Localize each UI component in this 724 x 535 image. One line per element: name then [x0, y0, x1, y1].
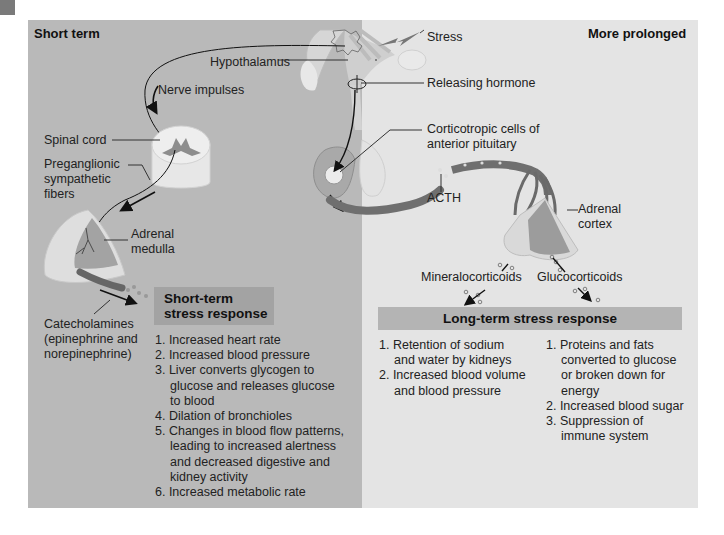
nerve-impulses-label: Nerve impulses — [158, 83, 244, 98]
adrenal-cortex-label-line1: Adrenal — [578, 202, 621, 217]
mineralocorticoid-effect-item: 1. Retention of sodium and water by kidn… — [379, 338, 554, 368]
stress-bolt-icon — [378, 32, 420, 46]
adrenal-cortex-label-line2: cortex — [578, 217, 612, 232]
catecholamines-label-line1: Catecholamines — [44, 317, 134, 332]
preganglionic-label-line1: Preganglionic — [44, 157, 120, 172]
adrenal-medulla-label-line2: medulla — [131, 242, 175, 257]
corticotropic-label-line1: Corticotropic cells of — [427, 122, 540, 137]
long-term-response-title: Long-term stress response — [378, 307, 682, 330]
short-term-effect-item: 1. Increased heart rate — [155, 333, 365, 348]
preganglionic-label-line3: fibers — [44, 187, 75, 202]
spinal-cord-icon — [152, 126, 210, 188]
mineralocorticoid-effect-item: 2. Increased blood volume and blood pres… — [379, 368, 554, 398]
short-term-effects-list: 1. Increased heart rate 2. Increased blo… — [155, 333, 365, 500]
short-term-title-line1: Short-term — [154, 287, 274, 306]
short-term-effect-item: 4. Dilation of bronchioles — [155, 409, 365, 424]
mineralocorticoids-label: Mineralocorticoids — [421, 270, 522, 285]
glucocorticoid-effect-item: 1. Proteins and fats converted to glucos… — [546, 338, 706, 399]
short-term-response-title-box: Short-term stress response — [154, 287, 274, 325]
glucocorticoids-label: Glucocorticoids — [537, 270, 622, 285]
glucocorticoid-effect-item: 3. Suppression of immune system — [546, 414, 706, 444]
short-term-title-line2: stress response — [154, 306, 274, 321]
glucocorticoid-effects-list: 1. Proteins and fats converted to glucos… — [546, 338, 706, 444]
adrenal-medulla-label-line1: Adrenal — [131, 227, 174, 242]
catecholamines-label-line2: (epinephrine and — [44, 332, 138, 347]
adrenal-medulla-icon — [44, 210, 125, 288]
short-term-effect-item: 3. Liver converts glycogen to glucose an… — [155, 363, 365, 409]
glucocorticoid-effect-item: 2. Increased blood sugar — [546, 399, 706, 414]
mineralocorticoid-effects-list: 1. Retention of sodium and water by kidn… — [379, 338, 554, 399]
more-prolonged-heading: More prolonged — [588, 26, 686, 41]
short-term-effect-item: 2. Increased blood pressure — [155, 348, 365, 363]
stress-label: Stress — [427, 30, 462, 45]
acth-label: ACTH — [427, 191, 461, 206]
spinal-cord-label: Spinal cord — [44, 133, 107, 148]
catecholamines-label-line3: norepinephrine) — [44, 347, 132, 362]
releasing-hormone-label: Releasing hormone — [427, 76, 535, 91]
short-term-effect-item: 5. Changes in blood flow patterns, leadi… — [155, 424, 365, 485]
short-term-heading: Short term — [34, 26, 100, 41]
short-term-effect-item: 6. Increased metabolic rate — [155, 485, 365, 500]
hypothalamus-label: Hypothalamus — [210, 55, 290, 70]
preganglionic-label-line2: sympathetic — [44, 172, 111, 187]
corticotropic-label-line2: anterior pituitary — [427, 137, 517, 152]
